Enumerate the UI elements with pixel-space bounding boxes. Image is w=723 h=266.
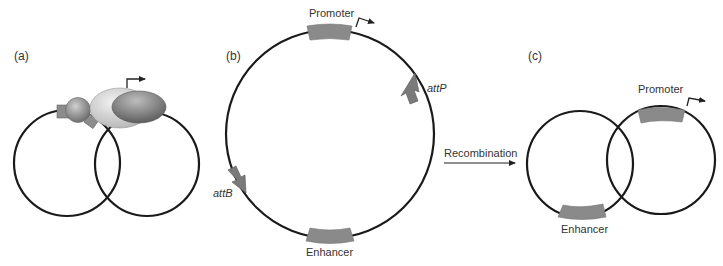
promoter-label: Promoter <box>309 7 355 19</box>
transcription-start-arrow-icon <box>687 98 705 106</box>
enhancer-label: Enhancer <box>306 246 353 258</box>
panel-a-label: (a) <box>14 49 29 63</box>
attB-label: attB <box>213 187 233 199</box>
dark-protein-icon <box>112 91 166 123</box>
panel-b: (b) Promoter Enhancer attP attB <box>213 7 447 258</box>
transcription-start-arrow-icon <box>127 79 145 88</box>
small-protein-icon <box>66 98 91 123</box>
panel-c-label: (c) <box>528 49 542 63</box>
recombination-diagram: (a) (b) Promoter Enhancer attP attB Reco… <box>0 0 723 266</box>
panel-a: (a) <box>14 49 199 216</box>
transcription-start-arrow-icon <box>356 18 374 27</box>
enhancer-segment <box>558 204 606 220</box>
recombination-label: Recombination <box>444 147 517 159</box>
dna-loop-left <box>14 110 120 216</box>
dna-loop-right <box>95 112 199 216</box>
attP-label: attP <box>427 82 447 94</box>
promoter-segment <box>638 108 685 124</box>
promoter-label: Promoter <box>638 83 684 95</box>
enhancer-segment <box>306 228 354 244</box>
recombination-transition: Recombination <box>444 147 517 163</box>
enhancer-label: Enhancer <box>561 223 608 235</box>
promoter-segment <box>307 24 352 40</box>
dna-plasmid-circle <box>226 30 434 238</box>
dna-loop-right <box>607 106 715 214</box>
panel-b-label: (b) <box>226 49 241 63</box>
panel-c: (c) Promoter Enhancer <box>527 49 715 235</box>
